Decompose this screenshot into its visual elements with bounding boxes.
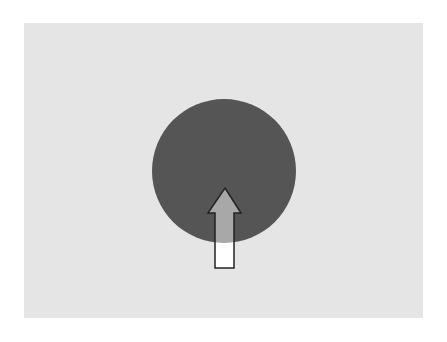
- scene: [0, 0, 447, 342]
